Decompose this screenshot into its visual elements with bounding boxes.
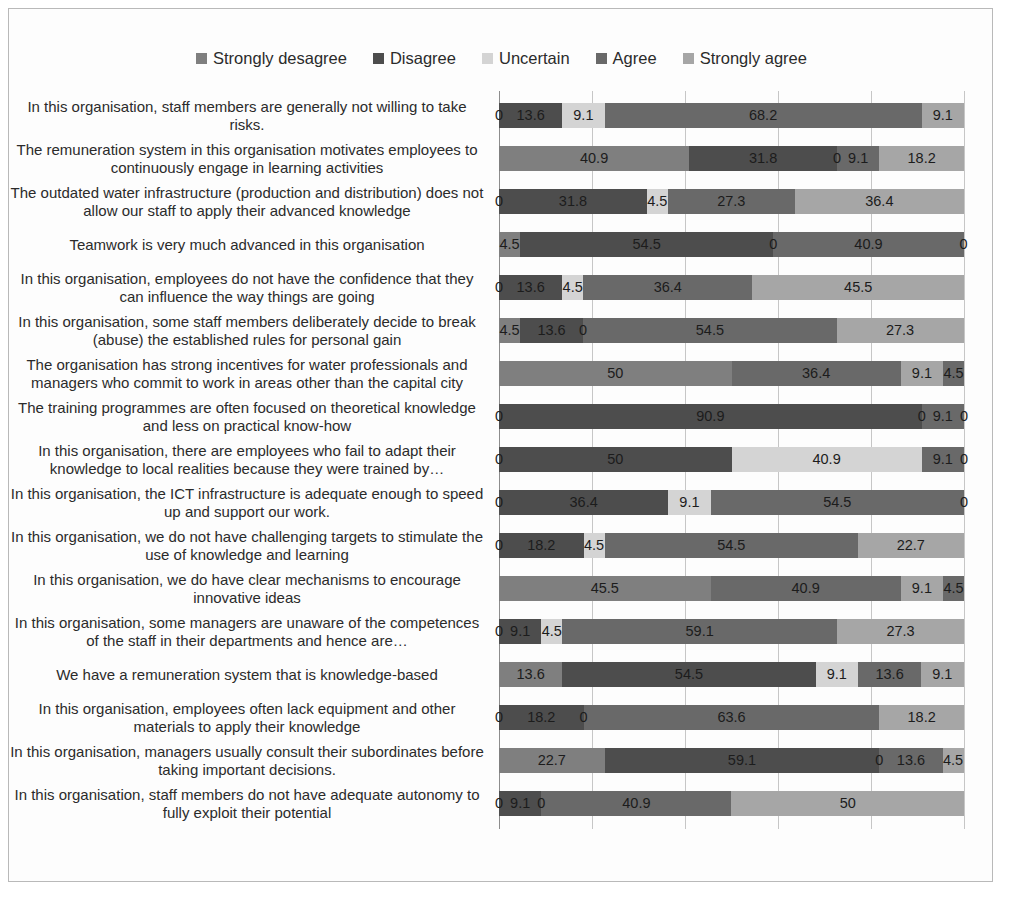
table-row[interactable]: 09.14.559.127.3 [499, 619, 964, 644]
bar-value-label: 0 [495, 710, 503, 725]
bar-segment[interactable]: 9.1 [901, 361, 943, 386]
bar-segment[interactable]: 4.5 [584, 533, 605, 558]
bar-segment[interactable]: 18.2 [499, 705, 584, 730]
bar-value-label: 0 [918, 409, 926, 424]
table-row[interactable]: 40.931.809.118.2 [499, 146, 964, 171]
bar-segment[interactable]: 68.2 [605, 103, 922, 128]
table-row[interactable]: 090.909.10 [499, 404, 964, 429]
bar-segment[interactable]: 27.3 [668, 189, 795, 214]
bar-value-label: 4.5 [943, 366, 963, 381]
table-row[interactable]: 036.49.154.50 [499, 490, 964, 515]
category-label-row: The remuneration system in this organisa… [9, 135, 491, 183]
bar-segment[interactable]: 4.5 [499, 232, 520, 257]
bar-segment[interactable]: 9.1 [922, 404, 964, 429]
bar-segment[interactable]: 9.1 [816, 662, 858, 687]
bar-segment[interactable]: 4.5 [541, 619, 562, 644]
category-label-row: In this organisation, the ICT infrastruc… [9, 479, 491, 527]
bar-segment[interactable]: 9.1 [562, 103, 604, 128]
bar-value-label: 0 [769, 237, 777, 252]
bar-segment[interactable]: 40.9 [732, 447, 922, 472]
bar-segment[interactable]: 31.8 [499, 189, 647, 214]
bar-segment[interactable]: 13.6 [499, 103, 562, 128]
bar-segment[interactable]: 50 [731, 791, 964, 816]
bar-segment[interactable]: 9.1 [922, 447, 964, 472]
bar-segment[interactable]: 40.9 [711, 576, 901, 601]
bar-segment[interactable]: 40.9 [499, 146, 689, 171]
category-label: In this organisation, employees often la… [9, 700, 485, 735]
bar-segment[interactable]: 9.1 [922, 103, 964, 128]
bar-segment[interactable]: 4.5 [499, 318, 520, 343]
bar-segment[interactable]: 54.5 [583, 318, 836, 343]
bar-segment[interactable]: 18.2 [879, 146, 964, 171]
bar-segment[interactable]: 22.7 [499, 748, 605, 773]
table-row[interactable]: 09.1040.950 [499, 791, 964, 816]
bar-segment[interactable]: 22.7 [858, 533, 964, 558]
bar-segment[interactable]: 4.5 [943, 576, 964, 601]
bar-segment[interactable]: 9.1 [499, 619, 541, 644]
table-row[interactable]: 22.759.1013.64.5 [499, 748, 964, 773]
bar-segment[interactable]: 18.2 [879, 705, 964, 730]
category-label: In this organisation, managers usually c… [9, 743, 485, 778]
bar-segment[interactable]: 36.4 [583, 275, 752, 300]
bar-segment[interactable]: 9.1 [901, 576, 943, 601]
bar-segment[interactable]: 40.9 [773, 232, 963, 257]
bar-value-label: 27.3 [717, 194, 745, 209]
bar-segment[interactable]: 59.1 [605, 748, 880, 773]
bar-segment[interactable]: 13.6 [499, 275, 562, 300]
bar-segment[interactable]: 36.4 [795, 189, 964, 214]
table-row[interactable]: 031.84.527.336.4 [499, 189, 964, 214]
bar-segment[interactable]: 54.5 [562, 662, 815, 687]
chart-frame: Strongly desagreeDisagreeUncertainAgreeS… [8, 8, 993, 882]
bar-segment[interactable]: 50 [499, 447, 732, 472]
bar-segment[interactable]: 9.1 [921, 662, 963, 687]
bar-segment[interactable]: 13.6 [499, 662, 562, 687]
bar-segment[interactable]: 13.6 [858, 662, 921, 687]
bar-value-label: 4.5 [943, 581, 963, 596]
bar-segment[interactable]: 45.5 [752, 275, 964, 300]
table-row[interactable]: 05040.99.10 [499, 447, 964, 472]
bar-value-label: 54.5 [696, 323, 724, 338]
bar-segment[interactable]: 4.5 [647, 189, 668, 214]
bar-segment[interactable]: 4.5 [943, 748, 964, 773]
bar-segment[interactable]: 13.6 [520, 318, 583, 343]
table-row[interactable]: 013.64.536.445.5 [499, 275, 964, 300]
table-row[interactable]: 4.554.5040.90 [499, 232, 964, 257]
bar-segment[interactable]: 4.5 [562, 275, 583, 300]
table-row[interactable]: 018.24.554.522.7 [499, 533, 964, 558]
bar-segment[interactable]: 18.2 [499, 533, 584, 558]
table-row[interactable]: 13.654.59.113.69.1 [499, 662, 964, 687]
bar-segment[interactable]: 50 [499, 361, 732, 386]
category-label-row: We have a remuneration system that is kn… [9, 651, 491, 699]
category-label: In this organisation, staff members do n… [9, 786, 485, 821]
bar-segment[interactable]: 59.1 [562, 619, 837, 644]
bar-value-label: 9.1 [933, 108, 953, 123]
bar-segment[interactable]: 9.1 [499, 791, 541, 816]
table-row[interactable]: 5036.49.14.5 [499, 361, 964, 386]
bar-segment[interactable]: 4.5 [943, 361, 964, 386]
bar-segment[interactable]: 54.5 [520, 232, 773, 257]
bar-segment[interactable]: 13.6 [879, 748, 942, 773]
table-row[interactable]: 013.69.168.29.1 [499, 103, 964, 128]
bar-segment[interactable]: 31.8 [689, 146, 837, 171]
bar-segment[interactable]: 45.5 [499, 576, 711, 601]
bar-segment[interactable]: 27.3 [837, 619, 964, 644]
bar-segment[interactable]: 90.9 [499, 404, 922, 429]
category-label-row: The outdated water infrastructure (produ… [9, 178, 491, 226]
bars-column: 013.69.168.29.140.931.809.118.2031.84.52… [499, 91, 964, 829]
bar-segment[interactable]: 54.5 [605, 533, 858, 558]
bar-segment[interactable]: 40.9 [541, 791, 731, 816]
table-row[interactable]: 45.540.99.14.5 [499, 576, 964, 601]
bar-value-label: 27.3 [886, 624, 914, 639]
bar-segment[interactable]: 63.6 [584, 705, 880, 730]
bar-value-label: 31.8 [749, 151, 777, 166]
bar-segment[interactable]: 27.3 [837, 318, 964, 343]
bar-segment[interactable]: 9.1 [837, 146, 879, 171]
table-row[interactable]: 018.2063.618.2 [499, 705, 964, 730]
bar-value-label: 40.9 [622, 796, 650, 811]
bar-segment[interactable]: 54.5 [711, 490, 964, 515]
table-row[interactable]: 4.513.6054.527.3 [499, 318, 964, 343]
bar-segment[interactable]: 36.4 [499, 490, 668, 515]
legend-item-4: Strongly agree [683, 49, 807, 67]
bar-segment[interactable]: 36.4 [732, 361, 901, 386]
bar-segment[interactable]: 9.1 [668, 490, 710, 515]
